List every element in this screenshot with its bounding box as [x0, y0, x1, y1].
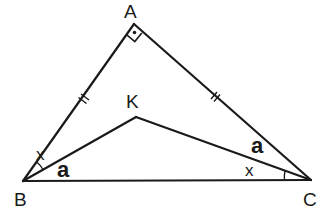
label-c: C	[303, 189, 317, 210]
angle-label-abk: x	[36, 145, 45, 164]
arc-kcb	[284, 171, 285, 180]
label-k: K	[126, 91, 139, 112]
segment-ck	[136, 117, 311, 180]
label-b: B	[14, 189, 27, 210]
triangle-diagram: A B C K x a a x	[0, 0, 326, 216]
right-angle-mark	[127, 33, 142, 42]
right-angle-dot	[133, 31, 137, 35]
label-a: A	[124, 1, 137, 22]
side-ac	[134, 24, 311, 180]
angle-label-kcb: x	[245, 161, 254, 180]
angle-label-ack: a	[251, 133, 264, 158]
angle-label-kbc: a	[57, 157, 70, 182]
